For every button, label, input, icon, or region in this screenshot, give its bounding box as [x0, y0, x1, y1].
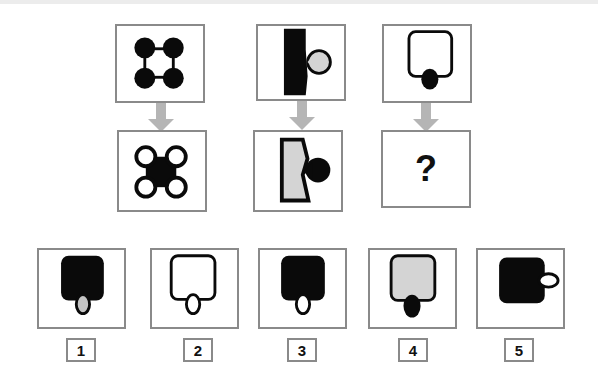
top-border-line	[0, 0, 598, 4]
question-mark: ?	[383, 132, 469, 206]
option-5-label[interactable]: 5	[504, 338, 534, 362]
option-1-box[interactable]	[37, 248, 126, 329]
option-2-figure	[152, 250, 237, 327]
option-3-figure	[260, 250, 345, 327]
option-4-label[interactable]: 4	[398, 338, 428, 362]
option-1-label[interactable]: 1	[66, 338, 96, 362]
arrow-down-icon	[413, 103, 439, 133]
option-5-figure	[478, 250, 563, 327]
four-black-circles-figure	[117, 26, 203, 101]
option-2-box[interactable]	[150, 248, 239, 329]
pair-2-bottom-box	[253, 130, 343, 212]
pair-1-top-box	[115, 24, 205, 103]
option-4-figure	[370, 250, 455, 327]
arrow-down-icon	[148, 103, 174, 133]
option-5-box[interactable]	[476, 248, 565, 329]
pair-1-bottom-box	[117, 130, 207, 212]
arrow-down-icon	[289, 101, 315, 131]
pair-3-top-box	[382, 24, 472, 103]
pair-2-top-box	[256, 24, 346, 101]
option-3-box[interactable]	[258, 248, 347, 329]
option-2-label[interactable]: 2	[183, 338, 213, 362]
pair-3-bottom-box: ?	[381, 130, 471, 208]
grey-shape-black-circle-figure	[255, 132, 341, 210]
option-1-figure	[39, 250, 124, 327]
black-square-white-circles-figure	[119, 132, 205, 210]
option-4-box[interactable]	[368, 248, 457, 329]
black-shape-grey-circle-figure	[258, 26, 344, 99]
option-3-label[interactable]: 3	[287, 338, 317, 362]
white-square-black-oval-figure	[384, 26, 470, 101]
